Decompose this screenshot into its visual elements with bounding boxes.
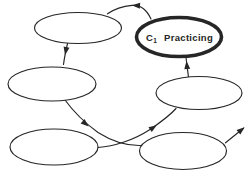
edge-c1-to-top-left <box>108 5 152 19</box>
edge-mid-right-to-c1-arrowhead-icon <box>183 61 190 70</box>
cycle-diagram: C1Practicing <box>0 0 252 174</box>
stage-top-left <box>35 13 122 44</box>
stage-bottom-left <box>10 129 98 165</box>
stage-mid-right <box>156 77 242 110</box>
cycle-diagram-figure: C1Practicing <box>0 0 252 174</box>
stage-bottom-right <box>140 133 227 170</box>
stage-mid-left <box>8 67 96 101</box>
edge-mid-left-to-bottom-right-arrowhead-icon <box>81 119 91 129</box>
edge-c1-to-top-left-arrowhead-icon <box>132 2 140 9</box>
